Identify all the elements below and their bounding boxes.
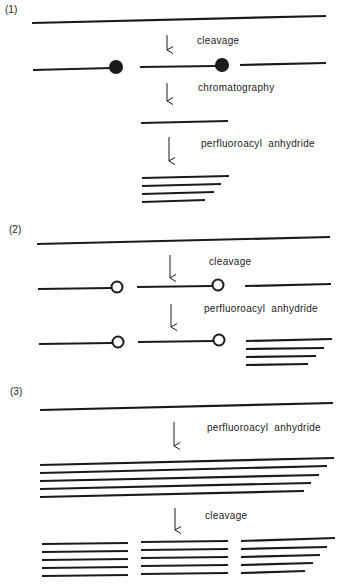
ladder-line: [142, 176, 229, 178]
step-label-cleavage: cleavage: [209, 256, 251, 267]
ladder-line: [40, 466, 327, 473]
section-1-label: (1): [5, 4, 17, 15]
isolated-fragment: [141, 121, 228, 123]
ladder-line: [142, 184, 221, 186]
ladder-line: [246, 348, 324, 349]
intact-chain: [37, 237, 330, 244]
ladder-line: [42, 559, 128, 560]
filled-circle-icon: [215, 58, 229, 72]
ladder-line: [40, 475, 319, 481]
fragment-left: [33, 68, 112, 70]
step-label-cleavage: cleavage: [197, 35, 239, 46]
section-2-label: (2): [9, 224, 21, 235]
ladder-line: [42, 551, 128, 552]
ladder-line: [141, 549, 228, 550]
ladder-line: [142, 192, 214, 194]
step-label-cleavage: cleavage: [205, 510, 247, 521]
ladder-line: [40, 491, 304, 497]
fragment-middle: [138, 341, 213, 342]
diagram-canvas: [0, 0, 338, 584]
section-3-label: (3): [10, 386, 22, 397]
step-label-perfluoroacyl-anhydride: perfluoroacyl anhydride: [207, 422, 321, 433]
ladder-line: [141, 557, 228, 558]
ladder-line: [142, 200, 205, 202]
intact-chain: [40, 403, 333, 410]
fragment-right: [245, 284, 331, 286]
ladder-line: [42, 567, 128, 568]
ladder-line: [241, 547, 327, 549]
ladder-line: [246, 356, 316, 357]
ladder-line: [42, 543, 128, 544]
ladder-line: [241, 571, 305, 573]
open-circle-icon: [214, 335, 225, 346]
ladder-line: [241, 563, 313, 565]
fragment-left: [38, 288, 111, 289]
section-1-graphics: [32, 16, 326, 202]
ladder-line: [40, 458, 334, 465]
open-circle-icon: [112, 282, 123, 293]
open-circle-icon: [113, 337, 124, 348]
section-2-graphics: [37, 237, 332, 365]
fragment-left: [39, 343, 112, 344]
fragment-right: [240, 63, 326, 65]
step-label-perfluoroacyl-anhydride: perfluoroacyl anhydride: [201, 138, 315, 149]
fragment-middle: [140, 66, 216, 67]
ladder-line: [141, 565, 228, 566]
ladder-line: [241, 555, 320, 557]
ladder-line: [141, 541, 228, 542]
filled-circle-icon: [109, 60, 123, 74]
step-label-chromatography: chromatography: [198, 82, 274, 93]
intact-chain: [32, 16, 326, 23]
ladder-line: [246, 364, 308, 365]
fragment-middle: [137, 286, 212, 287]
ladder-line: [42, 575, 128, 576]
ladder-line: [141, 573, 228, 574]
ladder-line: [40, 483, 311, 489]
step-label-perfluoroacyl-anhydride: perfluoroacyl anhydride: [204, 303, 318, 314]
ladder-line: [246, 339, 332, 341]
open-circle-icon: [213, 280, 224, 291]
ladder-line: [241, 538, 335, 541]
